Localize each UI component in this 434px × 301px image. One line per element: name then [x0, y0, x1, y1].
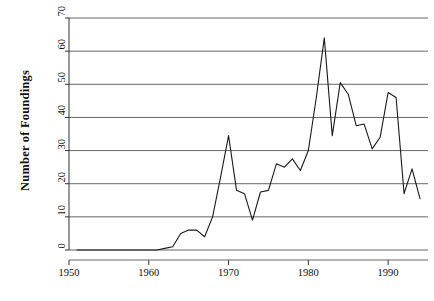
x-axis-ticks [69, 260, 388, 265]
data-series-line [77, 38, 420, 250]
x-tick-label: 1960 [138, 267, 159, 278]
x-tick-label: 1950 [59, 267, 80, 278]
x-tick-label: 1990 [378, 267, 399, 278]
x-tick-label: 1970 [218, 267, 239, 278]
x-tick-label: 1980 [298, 267, 319, 278]
gridlines [69, 18, 428, 250]
chart-figure: Number of Foundings 010203040506070 1950… [0, 0, 434, 301]
